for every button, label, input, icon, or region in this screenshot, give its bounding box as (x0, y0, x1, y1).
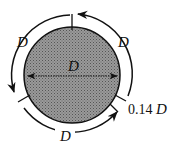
circle-arc-diagram: D D D D 0.14 D (0, 0, 181, 152)
arc-top-right-label: D (117, 34, 129, 50)
gap-tick-lower (110, 104, 118, 112)
gap-value: 0.14 (128, 102, 153, 117)
left-tick (18, 95, 30, 102)
arc-top-left-label: D (16, 34, 28, 50)
gap-unit: D (155, 101, 167, 117)
arc-bottom-label: D (59, 128, 71, 144)
gap-tick-upper (115, 95, 126, 101)
cross-section-disk (24, 27, 120, 123)
diameter-label: D (67, 58, 79, 74)
